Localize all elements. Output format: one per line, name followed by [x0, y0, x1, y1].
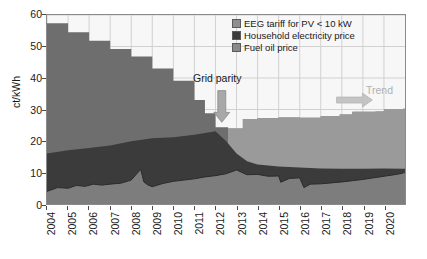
x-axis-tick [300, 206, 301, 210]
x-axis-tick [364, 206, 365, 210]
x-axis-tick-label: 2004 [45, 212, 57, 235]
chart-figure: ct/kWh 0102030405060 2004200520062007200… [0, 0, 427, 259]
legend-label: EEG tariff for PV < 10 kW [244, 18, 352, 29]
x-axis-tick-label: 2020 [384, 212, 396, 235]
x-axis-tick [152, 206, 153, 210]
x-axis-tick-label: 2009 [151, 212, 163, 235]
x-axis-tick [258, 206, 259, 210]
legend-swatch-icon [232, 43, 241, 52]
x-axis-tick [385, 206, 386, 210]
x-axis-tick [173, 206, 174, 210]
annotation-trend: Trend [366, 84, 393, 96]
x-axis-tick-label: 2010 [172, 212, 184, 235]
x-axis-tick [110, 206, 111, 210]
x-axis-tick-label: 2014 [257, 212, 269, 235]
legend-swatch-icon [232, 31, 241, 40]
x-axis-tick-label: 2011 [193, 212, 205, 235]
y-axis-ticks [0, 14, 46, 205]
x-axis-tick-label: 2005 [66, 212, 78, 235]
x-axis: 2004200520062007200820092010201120122013… [46, 206, 406, 258]
x-axis-tick-label: 2015 [278, 212, 290, 235]
chart-legend: EEG tariff for PV < 10 kWHousehold elect… [232, 18, 355, 54]
x-axis-tick [131, 206, 132, 210]
x-axis-tick-label: 2013 [236, 212, 248, 235]
x-axis-tick-label: 2006 [87, 212, 99, 235]
x-axis-tick [194, 206, 195, 210]
x-axis-tick-label: 2018 [341, 212, 353, 235]
x-axis-tick-label: 2007 [109, 212, 121, 235]
x-axis-tick-label: 2016 [299, 212, 311, 235]
annotation-grid-parity: Grid parity [193, 72, 241, 84]
x-axis-tick [279, 206, 280, 210]
x-axis-tick [67, 206, 68, 210]
legend-label: Household electricity price [244, 30, 355, 41]
x-axis-tick [88, 206, 89, 210]
legend-label: Fuel oil price [244, 42, 298, 53]
legend-item: Fuel oil price [232, 42, 355, 53]
x-axis-tick [46, 206, 47, 210]
legend-item: EEG tariff for PV < 10 kW [232, 18, 355, 29]
x-axis-tick [237, 206, 238, 210]
x-axis-tick [342, 206, 343, 210]
x-axis-tick [321, 206, 322, 210]
legend-swatch-icon [232, 19, 241, 28]
grid-parity-arrow-icon [214, 91, 230, 123]
x-axis-tick [215, 206, 216, 210]
x-axis-tick-label: 2008 [130, 212, 142, 235]
x-axis-tick-label: 2019 [363, 212, 375, 235]
x-axis-tick-label: 2017 [320, 212, 332, 235]
legend-item: Household electricity price [232, 30, 355, 41]
x-axis-tick-label: 2012 [214, 212, 226, 235]
